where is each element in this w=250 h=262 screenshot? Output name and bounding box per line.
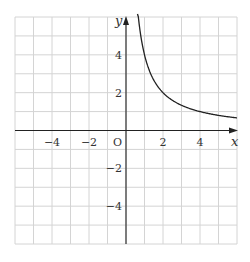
y-tick-label: −2 (106, 162, 122, 175)
y-axis-label: y (114, 13, 123, 28)
y-tick-label: −4 (106, 200, 122, 213)
curve-y-equals-4-over-x (137, 14, 237, 118)
y-tick-label: 4 (115, 49, 122, 62)
function-graph: −4−22442−2−4 x y O (0, 0, 250, 262)
origin-label: O (113, 136, 122, 149)
x-axis-label: x (231, 134, 239, 149)
x-tick-label: −2 (81, 136, 97, 149)
x-tick-label: 4 (197, 136, 204, 149)
x-tick-label: 2 (160, 136, 167, 149)
y-tick-label: 2 (115, 87, 122, 100)
x-tick-label: −4 (44, 136, 60, 149)
